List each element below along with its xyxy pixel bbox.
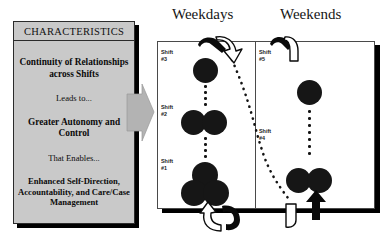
rotation-arrow-weekend-bottom-icon — [282, 190, 330, 232]
rotation-arrow-weekend-top-icon — [268, 33, 308, 69]
rotation-arrow-weekday-top-icon — [196, 33, 252, 71]
figure-canvas: CHARACTERISTICS Continuity of Relationsh… — [0, 0, 382, 249]
rotation-arrow-weekday-bottom-icon — [196, 194, 252, 234]
